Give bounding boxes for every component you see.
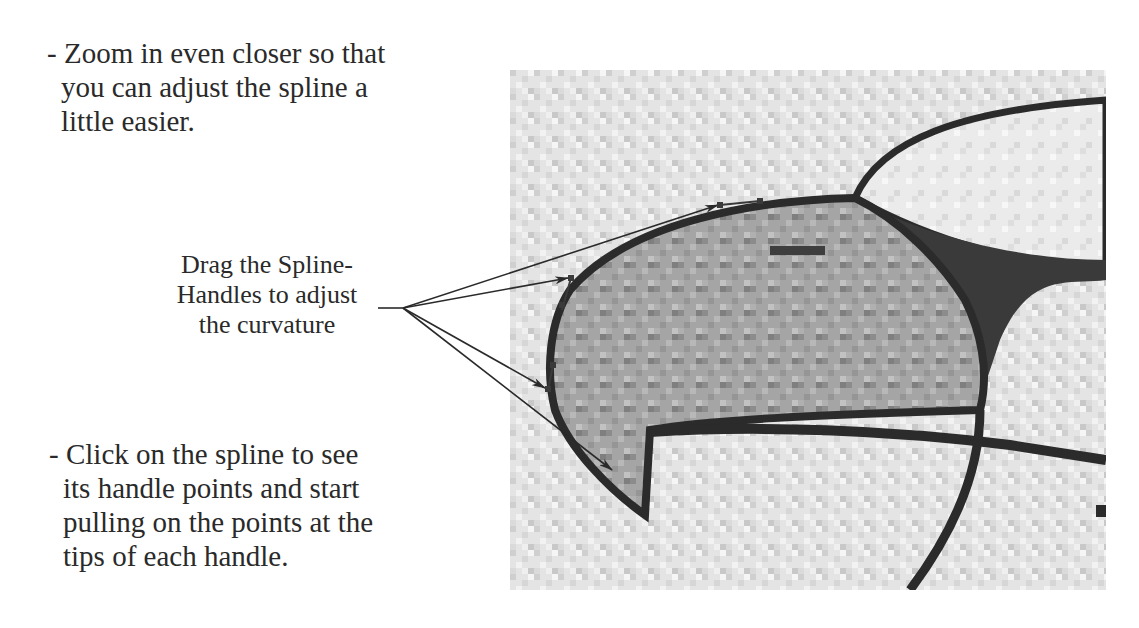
beak-illustration: [510, 70, 1106, 590]
callout-line: Drag the Spline-: [132, 250, 402, 280]
instruction-line: little easier.: [47, 104, 385, 138]
callout-line: Handles to adjust: [132, 280, 402, 310]
instruction-zoom-in: - Zoom in even closer so that you can ad…: [47, 36, 385, 138]
instruction-line: you can adjust the spline a: [47, 70, 385, 104]
callout-label: Drag the Spline- Handles to adjust the c…: [132, 250, 402, 340]
callout-line: the curvature: [132, 310, 402, 340]
instruction-line: pulling on the points at the: [49, 505, 373, 539]
instruction-line: tips of each handle.: [49, 539, 373, 573]
instruction-line: - Zoom in even closer so that: [47, 36, 385, 70]
bullet: -: [49, 438, 59, 470]
instruction-line: its handle points and start: [49, 471, 373, 505]
instruction-click-spline: - Click on the spline to see its handle …: [49, 437, 373, 573]
pixel-mark: [1096, 505, 1106, 517]
bullet: -: [47, 37, 57, 69]
nostril: [770, 246, 825, 255]
instruction-line: - Click on the spline to see: [49, 437, 373, 471]
instruction-text: Zoom in even closer so that: [64, 37, 385, 69]
instruction-text: Click on the spline to see: [66, 438, 358, 470]
